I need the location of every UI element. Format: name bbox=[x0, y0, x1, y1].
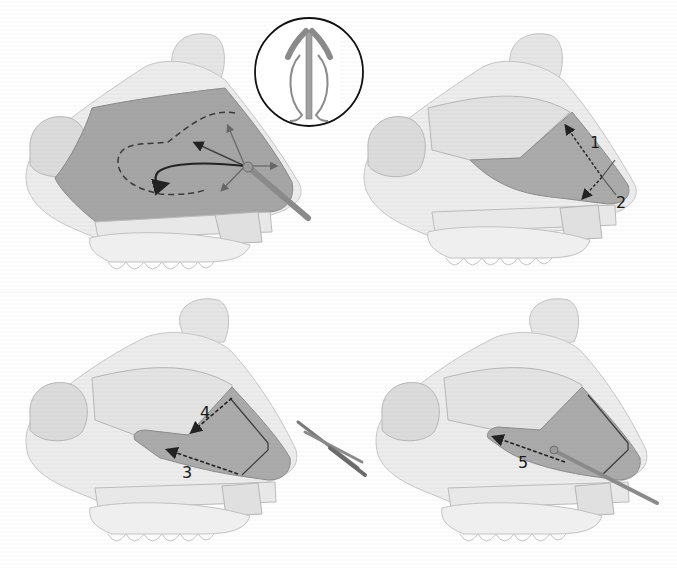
label-1: 1 bbox=[590, 133, 600, 152]
label-5: 5 bbox=[518, 453, 528, 472]
cartilage-measurement-illustration: 1 2 bbox=[340, 0, 677, 290]
panel-top-right: 1 2 bbox=[340, 0, 677, 290]
elevator-insertion-illustration: 5 bbox=[370, 290, 677, 568]
panel-bottom-right: 5 bbox=[370, 290, 677, 568]
panel-bottom-left: 4 3 bbox=[0, 290, 370, 568]
label-2: 2 bbox=[616, 193, 626, 212]
label-3: 3 bbox=[182, 463, 192, 482]
label-4: 4 bbox=[200, 403, 210, 422]
cartilage-incision-illustration: 4 3 bbox=[0, 290, 370, 568]
